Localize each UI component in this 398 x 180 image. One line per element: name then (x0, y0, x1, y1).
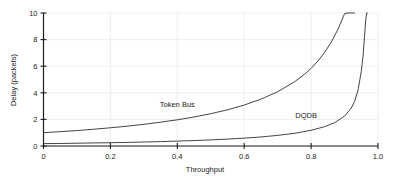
y-tick-label: 8 (33, 35, 37, 44)
y-tick-label: 6 (33, 62, 37, 71)
x-tick-label: 0 (41, 152, 45, 161)
y-tick-label: 10 (29, 9, 37, 18)
y-axis-tick-labels: 0246810 (29, 9, 37, 151)
series-label-token-bus: Token Bus (160, 100, 195, 109)
delay-throughput-chart: 00.20.40.60.81.0 0246810 Token BusDQDB T… (0, 0, 398, 180)
tick-marks (41, 13, 379, 149)
x-tick-label: 0.8 (306, 152, 316, 161)
y-tick-label: 2 (33, 115, 37, 124)
curve-dqdb (44, 13, 368, 144)
x-tick-label: 0.2 (105, 152, 115, 161)
gridlines (44, 13, 379, 146)
series-annotations: Token BusDQDB (160, 100, 317, 120)
x-tick-label: 0.6 (239, 152, 249, 161)
x-axis-tick-labels: 00.20.40.60.81.0 (41, 152, 383, 161)
x-tick-label: 1.0 (373, 152, 383, 161)
series-label-dqdb: DQDB (295, 111, 317, 120)
plot-curves (44, 13, 368, 144)
y-tick-label: 4 (33, 89, 37, 98)
chart-svg: 00.20.40.60.81.0 0246810 Token BusDQDB T… (0, 0, 398, 180)
axes (44, 13, 379, 146)
y-tick-label: 0 (33, 142, 37, 151)
x-axis-title: Throughput (186, 165, 225, 174)
y-axis-title: Delay (packets) (9, 53, 18, 106)
x-tick-label: 0.4 (172, 152, 182, 161)
